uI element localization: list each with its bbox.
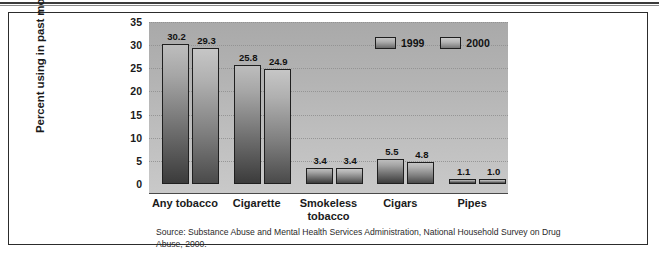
y-axis-tick-30: 30 (130, 40, 142, 50)
y-axis-tick-25: 25 (130, 63, 142, 73)
legend-swatch-icon (375, 37, 396, 49)
bar-2000-cigarette[interactable] (264, 69, 291, 184)
legend-label: 1999 (401, 37, 424, 49)
bar-1999-pipes[interactable] (449, 179, 476, 184)
x-axis-baseline (149, 193, 508, 194)
bar-2000-any-tobacco[interactable] (192, 48, 219, 184)
bar-1999-any-tobacco[interactable] (162, 44, 189, 184)
y-axis-tick-20: 20 (130, 86, 142, 96)
y-axis-tick-10: 10 (130, 133, 142, 143)
bar-group: 30.229.3 (160, 22, 222, 193)
y-axis-tick-labels: 35302520151050 (117, 22, 142, 193)
bar-value-label: 1.1 (450, 167, 477, 177)
bar-value-label: 3.4 (337, 156, 364, 166)
y-axis-tick-5: 5 (136, 156, 142, 166)
bar-value-label: 5.5 (378, 147, 405, 157)
y-axis-tick-0: 0 (136, 179, 142, 189)
bar-2000-smokeless-tobacco[interactable] (336, 168, 363, 184)
bar-2000-cigars[interactable] (407, 162, 434, 184)
bar-group: 25.824.9 (232, 22, 294, 193)
y-axis-title: Percent using in past month (34, 0, 46, 142)
bar-1999-cigars[interactable] (377, 159, 404, 184)
bar-value-label: 24.9 (265, 57, 292, 67)
bar-2000-pipes[interactable] (479, 179, 506, 184)
figure-frame: Percent using in past month 353025201510… (8, 12, 648, 245)
y-axis-tick-15: 15 (130, 110, 142, 120)
source-note: Source: Substance Abuse and Mental Healt… (156, 227, 576, 250)
page-top-rule-secondary (0, 5, 659, 6)
legend-swatch-icon (440, 37, 461, 49)
bar-value-label: 29.3 (193, 36, 220, 46)
x-axis-category-labels: Any tobaccoCigaretteSmokeless tobaccoCig… (149, 197, 508, 227)
bar-group: 3.43.4 (304, 22, 366, 193)
bar-value-label: 4.8 (408, 150, 435, 160)
x-axis-label-pipes: Pipes (429, 197, 515, 210)
bar-value-label: 25.8 (235, 53, 262, 63)
bar-value-label: 30.2 (163, 32, 190, 42)
bar-1999-cigarette[interactable] (234, 65, 261, 184)
legend-label: 2000 (466, 37, 489, 49)
legend-item-2000[interactable]: 2000 (440, 37, 489, 49)
chart-legend: 19992000 (375, 37, 490, 49)
legend-item-1999[interactable]: 1999 (375, 37, 424, 49)
bar-value-label: 3.4 (307, 156, 334, 166)
bar-1999-smokeless-tobacco[interactable] (306, 168, 333, 184)
y-axis-tick-35: 35 (130, 17, 142, 27)
bar-value-label: 1.0 (480, 167, 507, 177)
page-top-rule (0, 2, 659, 4)
